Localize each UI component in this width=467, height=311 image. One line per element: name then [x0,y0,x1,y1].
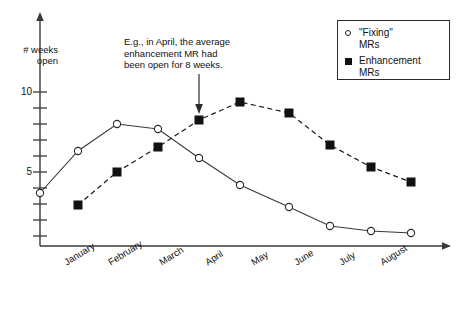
x-axis-arrowhead [442,242,451,250]
annotation-arrow [195,74,203,114]
legend: "Fixing" MRs Enhancement MRs [337,20,450,80]
series-enhancement-line [78,102,411,205]
line-chart: # weeks open 10 5 January February March… [0,0,467,311]
y-axis-title: # weeks open [6,44,58,66]
filled-square-icon [345,55,359,65]
y-tick-label-10: 10 [14,86,32,97]
series-fixing-markers [36,120,414,236]
legend-label-fixing: "Fixing" MRs [359,27,393,50]
y-axis-arrowhead [36,12,44,21]
open-circle-icon [345,27,359,36]
series-enhancement-markers [74,98,416,210]
annotation-text: E.g., in April, the average enhancement … [124,36,294,71]
legend-label-enhancement: Enhancement MRs [359,55,421,78]
legend-item-fixing: "Fixing" MRs [345,27,441,50]
legend-item-enhancement: Enhancement MRs [345,55,441,78]
y-tick-label-5: 5 [14,166,32,177]
series-fixing-line [40,124,411,233]
